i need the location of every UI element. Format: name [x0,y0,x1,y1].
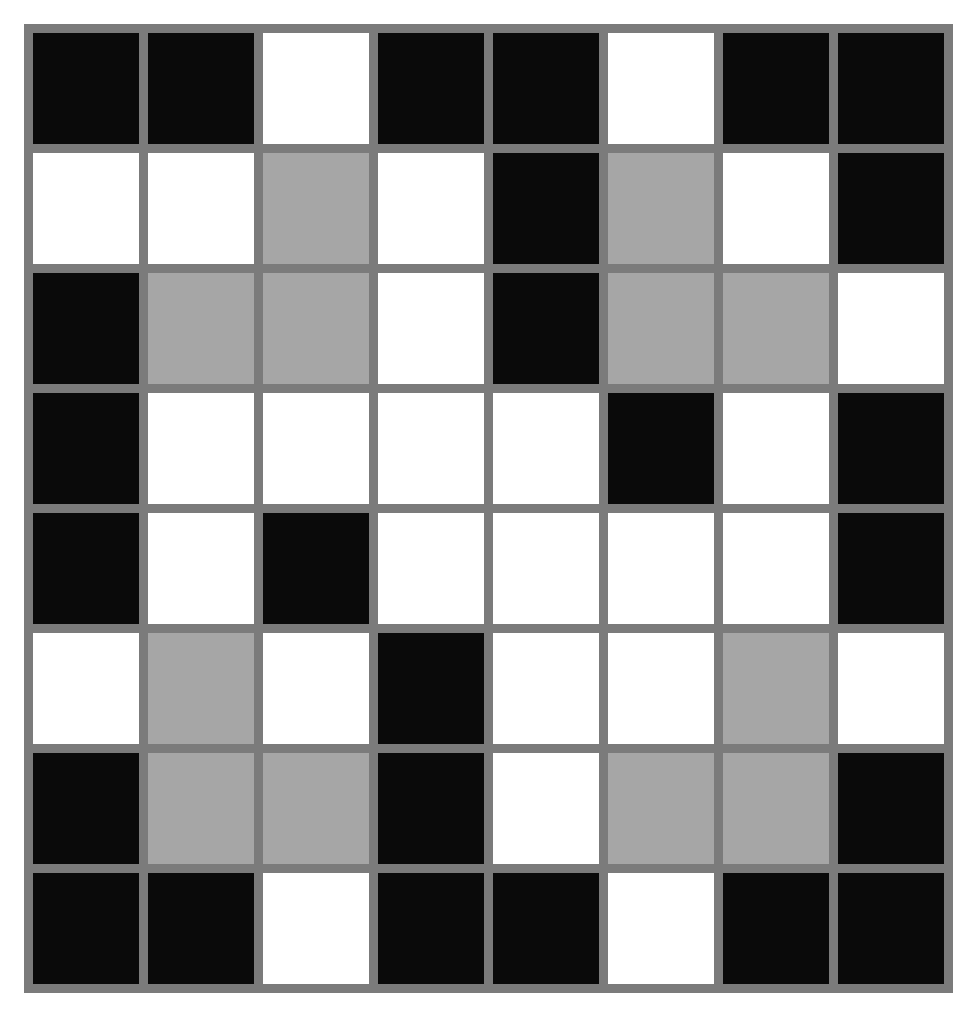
grid-cell-black-r3-c0[interactable] [33,393,139,504]
grid-cell-gray-r6-c5[interactable] [608,753,714,864]
grid-cell-gray-r1-c5[interactable] [608,153,714,264]
grid-cell-white-r5-c4[interactable] [493,633,599,744]
grid-cell-white-r1-c6[interactable] [723,153,829,264]
grid-cell-gray-r2-c6[interactable] [723,273,829,384]
grid-cell-black-r1-c4[interactable] [493,153,599,264]
grid-cell-black-r6-c3[interactable] [378,753,484,864]
grid-cell-white-r5-c2[interactable] [263,633,369,744]
grid-cell-white-r4-c6[interactable] [723,513,829,624]
grid-cell-gray-r2-c5[interactable] [608,273,714,384]
grid-cell-black-r3-c5[interactable] [608,393,714,504]
grid-cell-black-r0-c7[interactable] [838,33,944,144]
grid-cell-black-r7-c3[interactable] [378,873,484,984]
grid-cell-black-r0-c0[interactable] [33,33,139,144]
grid-cell-black-r2-c0[interactable] [33,273,139,384]
grid-cell-white-r5-c7[interactable] [838,633,944,744]
grid-cell-white-r4-c3[interactable] [378,513,484,624]
grid-cell-white-r7-c2[interactable] [263,873,369,984]
grid-cell-white-r3-c3[interactable] [378,393,484,504]
grid-cell-black-r7-c0[interactable] [33,873,139,984]
grid-cell-black-r7-c6[interactable] [723,873,829,984]
grid-cell-black-r6-c0[interactable] [33,753,139,864]
grid-cell-white-r1-c3[interactable] [378,153,484,264]
grid-cell-black-r0-c6[interactable] [723,33,829,144]
grid-cell-white-r3-c2[interactable] [263,393,369,504]
grid-cell-black-r2-c4[interactable] [493,273,599,384]
grid-cell-white-r5-c5[interactable] [608,633,714,744]
grid-cell-gray-r2-c2[interactable] [263,273,369,384]
grid-cell-white-r4-c5[interactable] [608,513,714,624]
grid-cell-white-r0-c5[interactable] [608,33,714,144]
grid-cell-gray-r5-c1[interactable] [148,633,254,744]
grid-cell-black-r7-c4[interactable] [493,873,599,984]
grid-cell-white-r6-c4[interactable] [493,753,599,864]
grid-cell-black-r1-c7[interactable] [838,153,944,264]
grid-cell-black-r0-c1[interactable] [148,33,254,144]
grid-cell-black-r0-c4[interactable] [493,33,599,144]
grid-cell-gray-r2-c1[interactable] [148,273,254,384]
grid-cell-white-r7-c5[interactable] [608,873,714,984]
grid-cell-gray-r6-c1[interactable] [148,753,254,864]
grid-cell-gray-r6-c2[interactable] [263,753,369,864]
grid-board [24,24,953,993]
grid-cell-white-r0-c2[interactable] [263,33,369,144]
grid-cell-white-r3-c6[interactable] [723,393,829,504]
grid-cell-white-r4-c1[interactable] [148,513,254,624]
grid-cell-white-r3-c4[interactable] [493,393,599,504]
grid-cell-black-r7-c1[interactable] [148,873,254,984]
grid-cell-gray-r6-c6[interactable] [723,753,829,864]
grid-cell-gray-r1-c2[interactable] [263,153,369,264]
grid-cell-white-r2-c3[interactable] [378,273,484,384]
grid-cell-white-r1-c1[interactable] [148,153,254,264]
grid-cell-white-r3-c1[interactable] [148,393,254,504]
grid-cell-black-r4-c0[interactable] [33,513,139,624]
grid-cell-white-r5-c0[interactable] [33,633,139,744]
grid-cell-black-r0-c3[interactable] [378,33,484,144]
grid-cell-white-r2-c7[interactable] [838,273,944,384]
grid-cell-black-r4-c7[interactable] [838,513,944,624]
grid-cell-black-r7-c7[interactable] [838,873,944,984]
grid-cell-black-r6-c7[interactable] [838,753,944,864]
grid-cell-black-r5-c3[interactable] [378,633,484,744]
grid-cell-white-r1-c0[interactable] [33,153,139,264]
grid-cell-black-r3-c7[interactable] [838,393,944,504]
grid-cell-black-r4-c2[interactable] [263,513,369,624]
grid-cell-gray-r5-c6[interactable] [723,633,829,744]
grid-cell-white-r4-c4[interactable] [493,513,599,624]
